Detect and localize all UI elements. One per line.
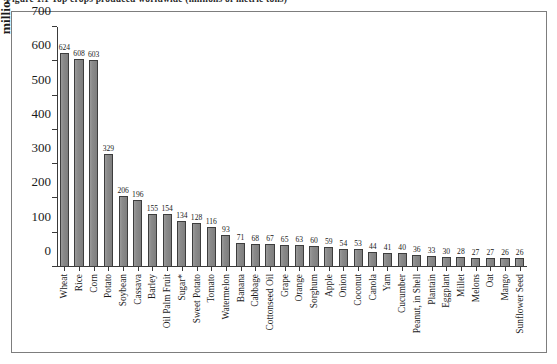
bar-value-label: 155 [147,204,158,213]
x-tick-mark [329,267,330,271]
x-tick-mark [490,267,491,271]
plot-area: 0100200300400500600700 62460860332920619… [57,27,527,267]
bar-value-label: 30 [442,247,450,256]
x-tick-label: Canola [368,274,378,301]
bar-value-label: 128 [191,213,202,222]
bar-slot: 30 [439,27,454,267]
bar [163,214,172,267]
bar-slot: 155 [145,27,160,267]
bar-slot: 603 [86,27,101,267]
x-tick-mark [387,267,388,271]
x-label-slot: Cassava [130,272,145,360]
x-tick-label: Coconut [353,274,363,306]
bar-slot: 59 [321,27,336,267]
x-tick-label: Tomato [206,274,216,303]
bar-slot: 329 [101,27,116,267]
bar-slot: 624 [57,27,72,267]
x-tick-label: Cassava [133,274,143,305]
bar-value-label: 40 [398,243,406,252]
x-label-slot: Oil Palm Fruit [160,272,175,360]
bar-value-label: 154 [161,204,172,213]
x-axis-labels: WheatRiceCornPotatoSoybeanCassavaBarleyO… [57,272,527,360]
chart-figure: Figure 1.1 Top crops produced worldwide … [0,0,557,364]
x-label-slot: Wheat [57,272,72,360]
bar-slot: 68 [248,27,263,267]
x-tick-mark [314,267,315,271]
x-tick-mark [211,267,212,271]
x-label-slot: Cucumber [395,272,410,360]
x-tick-label: Oil Palm Fruit [162,274,172,328]
bar-slot: 196 [130,27,145,267]
bar-slot: 128 [189,27,204,267]
x-label-slot: Orange [292,272,307,360]
x-label-slot: Onion [336,272,351,360]
bar [471,258,480,267]
bar [265,244,274,267]
bar-value-label: 59 [325,237,333,246]
x-label-slot: Peanut, in Shell [410,272,425,360]
y-tick-label: 300 [32,140,58,156]
bar-slot: 27 [483,27,498,267]
x-tick-label: Cabbage [250,274,260,307]
x-tick-label: Sunflower Seed [515,274,525,334]
bar [221,235,230,267]
x-tick-mark [476,267,477,271]
x-tick-label: Plantain [427,274,437,305]
bar [324,247,333,267]
bar-slot: 53 [351,27,366,267]
x-tick-mark [94,267,95,271]
x-label-slot: Cabbage [248,272,263,360]
bar-value-label: 71 [237,233,245,242]
bar-value-label: 27 [472,248,480,257]
bar [412,255,421,267]
bar-value-label: 68 [251,234,259,243]
x-label-slot: Coconut [351,272,366,360]
bar-value-label: 63 [296,235,304,244]
x-tick-mark [402,267,403,271]
bar-slot: 206 [116,27,131,267]
x-label-slot: Sorghum [307,272,322,360]
x-label-slot: Banana [233,272,248,360]
bar-value-label: 608 [73,49,84,58]
x-tick-label: Cottonseed Oil [265,274,275,331]
bar-slot: 67 [263,27,278,267]
x-tick-mark [520,267,521,271]
bar-slot: 33 [424,27,439,267]
x-tick-label: Cucumber [397,274,407,313]
x-tick-label: Corn [89,274,99,293]
x-label-slot: Millet [454,272,469,360]
x-tick-label: Yam [382,274,392,291]
bar-value-label: 36 [413,245,421,254]
bar [280,245,289,267]
bar-slot: 65 [277,27,292,267]
bar [74,59,83,267]
x-tick-label: Banana [236,274,246,302]
bar-value-label: 134 [176,211,187,220]
bar-slot: 26 [498,27,513,267]
bar [339,249,348,268]
x-tick-label: Watermelon [221,274,231,320]
x-label-slot: Apple [321,272,336,360]
bar [383,253,392,267]
bar-slot: 93 [219,27,234,267]
figure-caption: Figure 1.1 Top crops produced worldwide … [6,0,426,6]
bar [368,252,377,267]
bar-slot: 44 [365,27,380,267]
x-label-slot: Yam [380,272,395,360]
x-tick-label: Apple [324,274,334,297]
x-label-slot: Plantain [424,272,439,360]
y-tick-label: 600 [32,37,58,53]
x-tick-mark [432,267,433,271]
bar-value-label: 67 [266,234,274,243]
bar [104,154,113,267]
bar-value-label: 27 [486,248,494,257]
bar-value-label: 603 [88,50,99,59]
x-tick-label: Orange [294,274,304,302]
x-label-slot: Grape [277,272,292,360]
bar-value-label: 44 [369,242,377,251]
bar-slot: 28 [454,27,469,267]
bar [515,258,524,267]
x-label-slot: Rice [72,272,87,360]
y-tick-label: 500 [32,72,58,88]
bar-value-label: 624 [59,43,70,52]
